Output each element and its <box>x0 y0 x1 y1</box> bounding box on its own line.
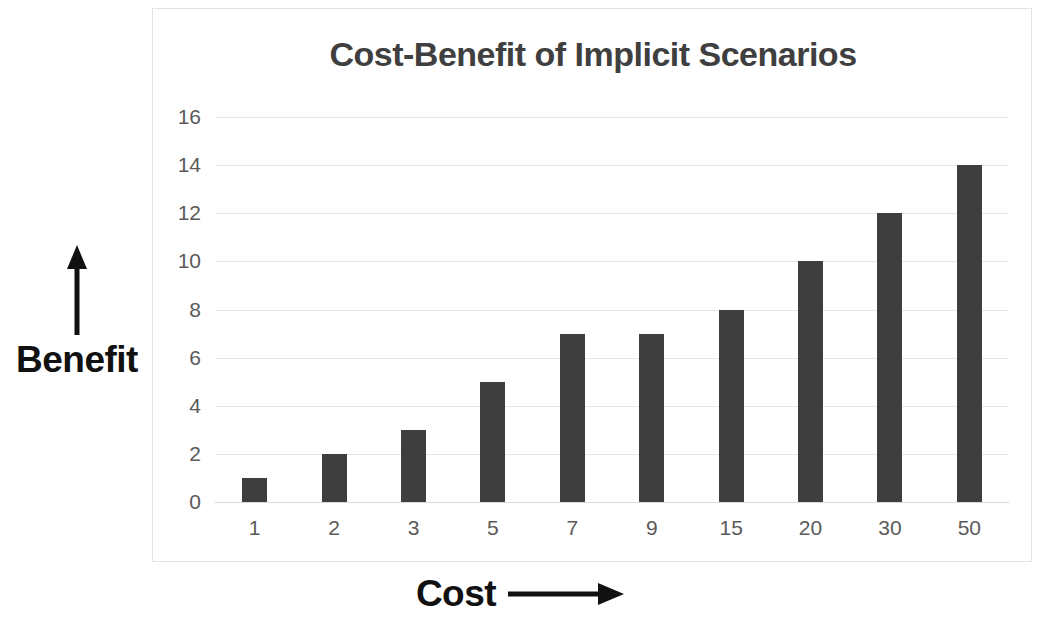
bar-slot: 5 <box>453 117 532 502</box>
bar <box>719 310 744 503</box>
x-axis-tick-label: 3 <box>408 516 420 540</box>
up-arrow-icon <box>64 243 90 335</box>
y-axis-label: Benefit <box>16 339 138 380</box>
bar <box>401 430 426 502</box>
bar-slot: 15 <box>691 117 770 502</box>
bar <box>957 165 982 502</box>
bar <box>242 478 267 502</box>
y-axis-tick-label: 10 <box>178 249 201 273</box>
y-axis-tick-label: 2 <box>189 442 201 466</box>
x-axis-label-group: Cost <box>0 575 1042 612</box>
bar-slot: 7 <box>533 117 612 502</box>
x-axis-tick-label: 30 <box>878 516 901 540</box>
chart-frame: Cost-Benefit of Implicit Scenarios 02468… <box>152 8 1032 562</box>
bar <box>798 261 823 502</box>
plot-area: 0246810121416 12357915203050 <box>215 117 1009 502</box>
bar-slot: 50 <box>930 117 1009 502</box>
y-axis-tick-label: 12 <box>178 201 201 225</box>
y-axis-tick-label: 4 <box>189 394 201 418</box>
x-axis-tick-label: 2 <box>328 516 340 540</box>
x-axis-tick-label: 1 <box>249 516 261 540</box>
y-axis-label-group: Benefit <box>8 243 146 378</box>
x-axis-tick-label: 20 <box>799 516 822 540</box>
bar <box>639 334 664 502</box>
bar <box>560 334 585 502</box>
x-axis-tick-label: 7 <box>566 516 578 540</box>
bar-slot: 20 <box>771 117 850 502</box>
y-axis-tick-label: 16 <box>178 105 201 129</box>
right-arrow-icon <box>508 580 626 608</box>
y-axis-tick-label: 8 <box>189 298 201 322</box>
bar-slot: 3 <box>374 117 453 502</box>
x-axis-tick-label: 15 <box>719 516 742 540</box>
y-axis-tick-label: 14 <box>178 153 201 177</box>
bar <box>322 454 347 502</box>
bars-layer: 12357915203050 <box>215 117 1009 502</box>
chart-title: Cost-Benefit of Implicit Scenarios <box>153 35 1033 74</box>
bar <box>877 213 902 502</box>
x-axis-tick-label: 9 <box>646 516 658 540</box>
x-axis-tick-label: 5 <box>487 516 499 540</box>
bar-slot: 9 <box>612 117 691 502</box>
bar-slot: 2 <box>294 117 373 502</box>
bar-slot: 1 <box>215 117 294 502</box>
x-axis-tick-label: 50 <box>958 516 981 540</box>
bar-slot: 30 <box>850 117 929 502</box>
x-axis-label: Cost <box>416 575 496 612</box>
y-axis-tick-label: 0 <box>189 490 201 514</box>
bar <box>480 382 505 502</box>
y-axis-tick-label: 6 <box>189 346 201 370</box>
gridline <box>215 502 1009 503</box>
